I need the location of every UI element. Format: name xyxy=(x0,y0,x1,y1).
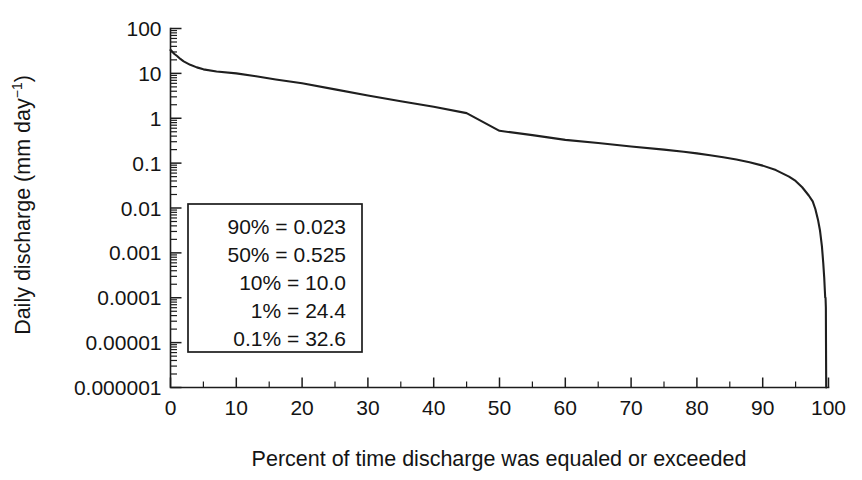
y-axis-tick-label: 0.0001 xyxy=(97,286,161,309)
legend-line: 1% = 24.4 xyxy=(251,299,346,322)
y-axis-tick-label: 0.01 xyxy=(121,197,162,220)
y-axis-tick-label: 100 xyxy=(126,17,161,40)
x-axis-tick-label: 70 xyxy=(619,396,642,419)
y-axis-title-exponent: −1 xyxy=(9,82,25,98)
x-axis-tick-label: 90 xyxy=(751,396,774,419)
y-axis-title: Daily discharge (mm day−1) xyxy=(9,75,35,335)
legend-line: 0.1% = 32.6 xyxy=(233,327,346,350)
y-axis-tick-label: 0.1 xyxy=(132,152,161,175)
x-axis-title: Percent of time discharge was equaled or… xyxy=(252,447,747,471)
y-axis-title-group: Daily discharge (mm day−1) xyxy=(9,75,35,335)
y-axis-title-base: Daily discharge (mm day xyxy=(11,98,35,335)
x-axis-tick-label: 100 xyxy=(811,396,846,419)
x-axis-tick-label: 10 xyxy=(225,396,248,419)
legend-line: 50% = 0.525 xyxy=(227,243,346,266)
y-axis-tick-label: 0.000001 xyxy=(74,376,162,399)
legend-line: 10% = 10.0 xyxy=(239,271,346,294)
flow-duration-curve-chart: 1001010.10.010.0010.00010.000010.000001 … xyxy=(0,0,862,480)
x-axis-tick-label: 20 xyxy=(290,396,313,419)
y-axis-tick-labels: 1001010.10.010.0010.00010.000010.000001 xyxy=(74,17,162,399)
y-axis-tick-label: 0.00001 xyxy=(86,331,162,354)
y-axis-title-tail: ) xyxy=(11,75,35,82)
x-axis-tick-label: 0 xyxy=(165,396,177,419)
x-axis-tick-label: 40 xyxy=(422,396,445,419)
legend-line: 90% = 0.023 xyxy=(227,215,346,238)
figure-container: 1001010.10.010.0010.00010.000010.000001 … xyxy=(0,0,862,480)
x-axis-tick-label: 80 xyxy=(685,396,708,419)
x-axis-tick-label: 60 xyxy=(554,396,577,419)
y-axis-tick-label: 0.001 xyxy=(109,241,162,264)
x-axis-tick-label: 30 xyxy=(356,396,379,419)
legend-box: 90% = 0.023 50% = 0.525 10% = 10.0 1% = … xyxy=(188,204,362,352)
y-axis-tick-label: 1 xyxy=(150,107,162,130)
x-axis-tick-labels: 0102030405060708090100 xyxy=(165,396,846,419)
y-axis-tick-label: 10 xyxy=(138,62,161,85)
x-axis-tick-label: 50 xyxy=(488,396,511,419)
